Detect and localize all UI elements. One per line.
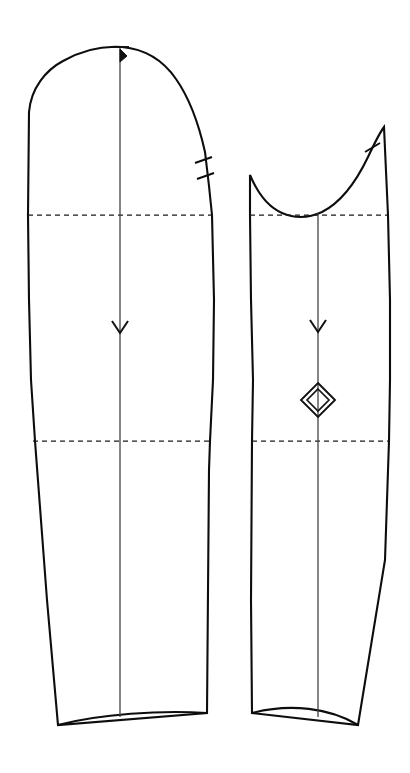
upper-sleeve-piece[interactable]	[28, 47, 214, 725]
pattern-sheet	[0, 0, 410, 773]
under-sleeve-outline	[250, 127, 390, 725]
under-sleeve-piece[interactable]	[250, 127, 390, 725]
upper-sleeve-outline	[28, 47, 214, 725]
pattern-drawing-canvas	[0, 0, 410, 773]
